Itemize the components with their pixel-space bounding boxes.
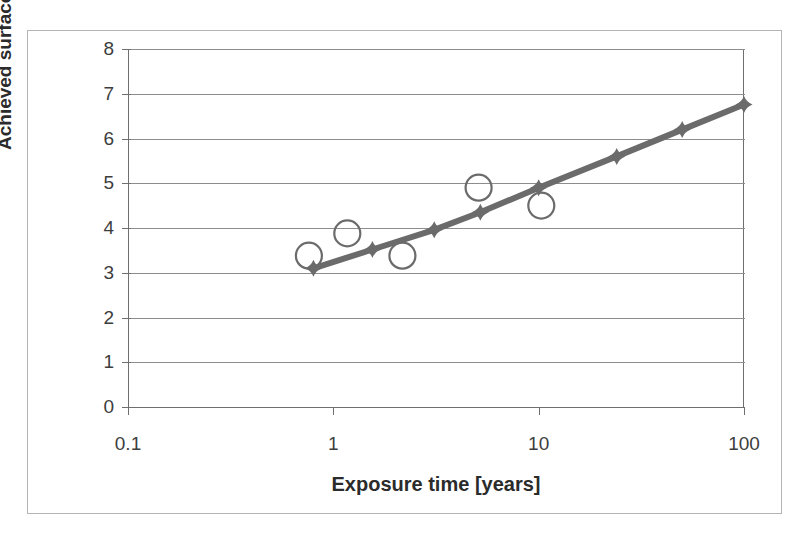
plot-wrapper: Achieved surface chloride Csa Exposure t… <box>0 0 812 548</box>
x-axis-tick-label: 0.1 <box>115 434 141 453</box>
gridline-y <box>129 228 745 229</box>
y-axis-tick-label: 7 <box>88 84 114 103</box>
y-axis-tick <box>122 273 131 274</box>
gridline-y <box>129 318 745 319</box>
x-axis-title: Exposure time [years] <box>128 473 744 496</box>
y-axis-tick <box>122 139 131 140</box>
y-axis-tick-label: 2 <box>88 308 114 327</box>
plot-area <box>128 49 744 407</box>
x-axis-tick <box>333 407 334 415</box>
x-axis-tick-label: 10 <box>528 434 549 453</box>
y-axis-tick-label: 3 <box>88 263 114 282</box>
y-axis-tick <box>122 49 131 50</box>
gridline-y <box>129 362 745 363</box>
y-axis-tick-label: 5 <box>88 173 114 192</box>
gridline-y <box>129 273 745 274</box>
y-axis-tick <box>122 183 131 184</box>
y-axis-tick-label: 6 <box>88 129 114 148</box>
x-axis-line <box>128 407 744 408</box>
y-axis-tick-label: 0 <box>88 397 114 416</box>
gridline-y <box>129 183 745 184</box>
x-axis-tick-label: 100 <box>728 434 760 453</box>
x-axis-tick <box>128 407 129 415</box>
y-axis-title: Achieved surface chloride Csa <box>0 0 19 150</box>
gridline-y <box>129 139 745 140</box>
chart-figure: Achieved surface chloride Csa Exposure t… <box>0 0 812 548</box>
gridline-y <box>129 94 745 95</box>
y-axis-tick-label: 4 <box>88 218 114 237</box>
y-axis-tick <box>122 362 131 363</box>
y-axis-title-text: Achieved surface chloride <box>0 0 15 150</box>
x-axis-tick <box>744 407 745 415</box>
y-axis-tick-label: 8 <box>88 39 114 58</box>
y-axis-tick <box>122 94 131 95</box>
y-axis-tick-label: 1 <box>88 352 114 371</box>
gridline-y <box>129 49 745 50</box>
y-axis-tick <box>122 318 131 319</box>
y-axis-tick <box>122 228 131 229</box>
x-axis-tick-label: 1 <box>328 434 339 453</box>
x-axis-tick <box>539 407 540 415</box>
